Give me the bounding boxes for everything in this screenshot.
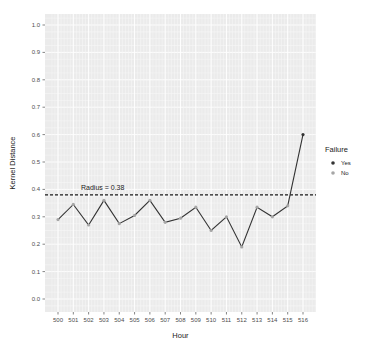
data-point bbox=[179, 217, 182, 220]
x-tick-label: 516 bbox=[298, 317, 309, 323]
kernel-distance-chart: Radius = 0.38 0.00.10.20.30.40.50.60.70.… bbox=[0, 0, 369, 350]
legend-item-no: No bbox=[331, 170, 349, 176]
grid-lines bbox=[45, 14, 316, 312]
x-tick-label: 511 bbox=[222, 317, 232, 323]
data-point bbox=[133, 214, 136, 217]
x-tick-label: 510 bbox=[206, 317, 217, 323]
data-point bbox=[225, 215, 228, 218]
y-tick-label: 0.2 bbox=[32, 241, 41, 247]
y-tick-label: 0.4 bbox=[32, 186, 41, 192]
x-tick-label: 508 bbox=[175, 317, 186, 323]
y-tick-label: 0.1 bbox=[32, 269, 41, 275]
legend: Failure Yes No bbox=[325, 145, 351, 176]
x-tick-label: 513 bbox=[252, 317, 263, 323]
y-axis: 0.00.10.20.30.40.50.60.70.80.91.0 bbox=[32, 22, 45, 302]
radius-annotation: Radius = 0.38 bbox=[81, 184, 124, 191]
data-point bbox=[56, 218, 59, 221]
data-point bbox=[255, 206, 258, 209]
y-tick-label: 0.9 bbox=[32, 49, 41, 55]
data-point bbox=[148, 199, 151, 202]
x-tick-label: 512 bbox=[237, 317, 248, 323]
data-point bbox=[210, 229, 213, 232]
x-tick-label: 507 bbox=[160, 317, 171, 323]
y-tick-label: 0.8 bbox=[32, 77, 41, 83]
y-tick-label: 1.0 bbox=[32, 22, 41, 28]
legend-item-yes: Yes bbox=[331, 160, 351, 166]
data-point bbox=[72, 203, 75, 206]
y-tick-label: 0.6 bbox=[32, 132, 41, 138]
x-tick-label: 501 bbox=[68, 317, 79, 323]
y-axis-title: Kernel Distance bbox=[8, 137, 17, 190]
x-axis: 5005015025035045055065075085095105115125… bbox=[53, 312, 309, 323]
legend-point-yes-icon bbox=[331, 161, 335, 165]
data-point bbox=[164, 221, 167, 224]
data-point bbox=[102, 199, 105, 202]
y-tick-label: 0.7 bbox=[32, 104, 41, 110]
x-tick-label: 506 bbox=[145, 317, 156, 323]
data-point bbox=[301, 133, 304, 136]
data-point bbox=[271, 215, 274, 218]
data-point bbox=[194, 206, 197, 209]
y-tick-label: 0.5 bbox=[32, 159, 41, 165]
x-tick-label: 504 bbox=[114, 317, 125, 323]
x-tick-label: 505 bbox=[130, 317, 141, 323]
y-tick-label: 0.3 bbox=[32, 214, 41, 220]
x-tick-label: 509 bbox=[191, 317, 202, 323]
data-point bbox=[118, 222, 121, 225]
x-tick-label: 515 bbox=[283, 317, 294, 323]
x-tick-label: 503 bbox=[99, 317, 110, 323]
x-tick-label: 514 bbox=[267, 317, 278, 323]
legend-point-no-icon bbox=[331, 171, 335, 175]
data-point bbox=[286, 204, 289, 207]
data-point bbox=[87, 223, 90, 226]
x-tick-label: 502 bbox=[84, 317, 95, 323]
y-tick-label: 0.0 bbox=[32, 296, 41, 302]
x-tick-label: 500 bbox=[53, 317, 64, 323]
x-axis-title: Hour bbox=[172, 331, 189, 340]
legend-title: Failure bbox=[325, 145, 348, 154]
data-point bbox=[240, 245, 243, 248]
legend-label-no: No bbox=[341, 170, 349, 176]
legend-label-yes: Yes bbox=[341, 160, 351, 166]
